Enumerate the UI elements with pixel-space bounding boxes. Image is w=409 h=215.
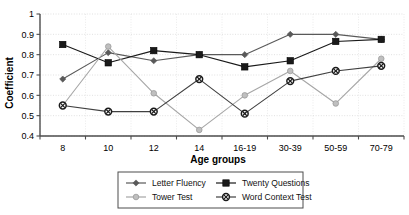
data-point xyxy=(242,64,248,70)
data-point xyxy=(287,31,293,37)
x-tick-label: 70-79 xyxy=(370,143,393,153)
data-point xyxy=(196,51,202,57)
x-axis-title: Age groups xyxy=(190,154,246,165)
data-point xyxy=(151,58,157,64)
y-tick-label: 0.4 xyxy=(21,131,34,141)
gridlines xyxy=(40,14,404,136)
x-tick-label: 30-39 xyxy=(279,143,302,153)
legend-item-label: Tower Test xyxy=(152,192,193,202)
x-tick-label: 12 xyxy=(149,143,159,153)
data-point xyxy=(242,52,248,58)
data-point xyxy=(60,76,66,82)
legend-marker-icon xyxy=(133,194,139,200)
data-point xyxy=(151,91,157,97)
data-point xyxy=(287,78,294,85)
data-point xyxy=(151,47,157,53)
data-point xyxy=(287,58,293,64)
series-tower-test xyxy=(60,44,384,133)
y-axis-title: Coefficient xyxy=(4,56,15,108)
y-tick-label: 0.6 xyxy=(21,91,34,101)
data-point xyxy=(150,108,157,115)
line-chart: 0.40.50.60.70.80.91 810121416-1930-3950-… xyxy=(0,0,409,215)
data-point xyxy=(105,108,112,115)
x-axis-tick-labels: 810121416-1930-3950-5970-79 xyxy=(60,143,393,153)
legend: Letter FluencyTwenty QuestionsTower Test… xyxy=(118,172,312,208)
data-point xyxy=(378,56,384,62)
data-point xyxy=(196,127,202,133)
data-point xyxy=(332,68,339,75)
legend-item-label: Letter Fluency xyxy=(152,178,207,188)
y-tick-label: 0.9 xyxy=(21,30,34,40)
data-point xyxy=(60,41,66,47)
data-point xyxy=(105,44,111,50)
y-tick-label: 0.5 xyxy=(21,111,34,121)
axes xyxy=(37,14,405,140)
data-point xyxy=(378,62,385,69)
data-point xyxy=(196,76,203,83)
legend-item-label: Word Context Test xyxy=(242,192,312,202)
y-tick-label: 0.7 xyxy=(21,70,34,80)
x-tick-label: 50-59 xyxy=(324,143,347,153)
data-point xyxy=(287,68,293,74)
data-point xyxy=(333,101,339,107)
y-tick-label: 0.8 xyxy=(21,50,34,60)
data-point xyxy=(105,60,111,66)
x-tick-label: 10 xyxy=(103,143,113,153)
legend-marker-icon xyxy=(223,180,229,186)
data-point xyxy=(241,110,248,117)
x-tick-label: 8 xyxy=(60,143,65,153)
x-tick-label: 14 xyxy=(194,143,204,153)
data-point xyxy=(242,93,248,99)
y-axis-tick-labels: 0.40.50.60.70.80.91 xyxy=(21,9,34,141)
legend-item-label: Twenty Questions xyxy=(242,178,310,188)
data-point xyxy=(333,31,339,37)
data-point xyxy=(59,102,66,109)
y-tick-label: 1 xyxy=(29,9,34,19)
legend-marker-icon xyxy=(223,194,230,201)
data-point xyxy=(333,38,339,44)
x-tick-label: 16-19 xyxy=(233,143,256,153)
data-point xyxy=(378,36,384,42)
chart-container: 0.40.50.60.70.80.91 810121416-1930-3950-… xyxy=(0,0,409,215)
